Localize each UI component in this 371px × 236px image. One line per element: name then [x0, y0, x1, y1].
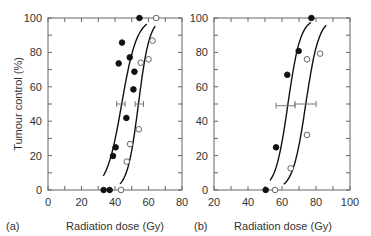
data-point-filled — [107, 187, 113, 193]
data-point-filled — [101, 187, 107, 193]
data-point-filled — [124, 115, 130, 121]
x-tick-label: 60 — [276, 196, 288, 208]
y-tick-label: 80 — [30, 46, 42, 58]
x-axis-title-a: Radiation dose (Gy) — [66, 220, 164, 232]
y-tick-label: 60 — [196, 81, 208, 93]
data-point-open — [317, 51, 323, 57]
data-point-filled — [263, 187, 269, 193]
data-point-open — [136, 126, 142, 132]
data-point-filled — [296, 48, 302, 54]
x-tick-label: 80 — [310, 196, 322, 208]
x-tick-label: 60 — [142, 196, 154, 208]
y-tick-label: 80 — [196, 46, 208, 58]
x-tick-label: 0 — [45, 196, 51, 208]
figure: Tumour control (%) (a) Radiation dose (G… — [0, 0, 371, 236]
data-point-open — [118, 187, 124, 193]
data-point-filled — [113, 145, 119, 151]
data-point-open — [304, 132, 310, 138]
y-tick-label: 60 — [30, 81, 42, 93]
x-tick-label: 20 — [75, 196, 87, 208]
y-tick-label: 100 — [190, 12, 208, 24]
x-tick-label: 40 — [242, 196, 254, 208]
data-point-open — [127, 141, 133, 147]
data-point-open — [272, 187, 278, 193]
x-axis-title-b: Radiation dose (Gy) — [234, 220, 332, 232]
x-tick-label: 20 — [208, 196, 220, 208]
data-point-open — [288, 166, 294, 172]
data-point-filled — [273, 145, 279, 151]
data-point-open — [304, 56, 310, 62]
y-tick-label: 20 — [30, 150, 42, 162]
data-point-open — [124, 159, 130, 165]
data-point-open — [150, 38, 156, 44]
panel-b: (b) Radiation dose (Gy) 2040608010002040… — [190, 12, 360, 232]
panel-a: Tumour control (%) (a) Radiation dose (G… — [6, 12, 188, 232]
panel-label-a: (a) — [6, 220, 19, 232]
y-tick-label: 0 — [202, 184, 208, 196]
data-point-filled — [119, 40, 125, 46]
y-axis-title: Tumour control (%) — [12, 57, 24, 151]
plot-frame — [214, 18, 350, 190]
data-point-filled — [110, 153, 116, 159]
data-point-open — [146, 56, 152, 62]
y-tick-label: 100 — [24, 12, 42, 24]
data-point-filled — [116, 61, 122, 67]
fit-curve-filled — [103, 24, 147, 176]
data-point-filled — [132, 69, 138, 75]
fit-curve-open — [284, 25, 327, 184]
x-tick-label: 40 — [109, 196, 121, 208]
y-tick-label: 20 — [196, 150, 208, 162]
panel-label-b: (b) — [194, 220, 207, 232]
data-point-filled — [127, 55, 133, 61]
data-point-filled — [309, 15, 315, 21]
data-point-open — [138, 60, 144, 66]
data-point-open — [153, 15, 159, 21]
plot-frame — [48, 18, 182, 190]
y-tick-label: 40 — [196, 115, 208, 127]
x-tick-label: 80 — [176, 196, 188, 208]
data-point-filled — [137, 15, 143, 21]
y-tick-label: 0 — [36, 184, 42, 196]
data-point-filled — [284, 72, 290, 78]
data-point-filled — [131, 87, 137, 93]
y-tick-label: 40 — [30, 115, 42, 127]
fit-curve-filled — [270, 22, 311, 180]
x-tick-label: 100 — [341, 196, 359, 208]
